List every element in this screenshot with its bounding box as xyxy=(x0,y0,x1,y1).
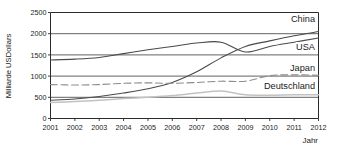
x-tick-label: 2003 xyxy=(91,123,107,132)
y-tick-label: 2000 xyxy=(31,29,47,38)
x-tick-label: 2007 xyxy=(189,123,205,132)
x-axis-title: Jahr xyxy=(302,136,318,145)
x-tick-label: 2011 xyxy=(286,123,301,132)
x-axis-tick-labels: 2001200220032004200520062007200820092010… xyxy=(43,123,327,132)
x-tick-label: 2004 xyxy=(116,123,132,132)
x-tick-label: 2001 xyxy=(43,123,59,132)
y-axis-tick-labels: 05001000150020002500 xyxy=(31,8,47,123)
series-line-usa xyxy=(51,38,319,60)
series-label-deutschland: Deutschland xyxy=(264,81,315,91)
x-tick-label: 2009 xyxy=(237,123,253,132)
series-labels: ChinaUSAJapanDeutschland xyxy=(255,14,316,92)
series-label-japan: Japan xyxy=(290,63,315,73)
y-tick-label: 1500 xyxy=(31,51,47,60)
x-tick-label: 2005 xyxy=(140,123,156,132)
line-chart: 05001000150020002500 2001200220032004200… xyxy=(0,0,343,147)
x-tick-label: 2002 xyxy=(67,123,83,132)
series-line-deutschland xyxy=(51,91,319,102)
y-tick-label: 2500 xyxy=(31,8,47,17)
y-tick-label: 1000 xyxy=(31,72,47,81)
x-tick-label: 2012 xyxy=(311,123,327,132)
series-label-china: China xyxy=(291,14,316,24)
y-tick-label: 500 xyxy=(35,93,47,102)
series-label-usa: USA xyxy=(296,42,316,52)
chart-container: 05001000150020002500 2001200220032004200… xyxy=(0,0,343,147)
x-tick-label: 2006 xyxy=(164,123,180,132)
x-tick-label: 2008 xyxy=(213,123,229,132)
y-axis-title: Milliarde USDollars xyxy=(4,34,13,99)
x-tick-label: 2010 xyxy=(262,123,278,132)
